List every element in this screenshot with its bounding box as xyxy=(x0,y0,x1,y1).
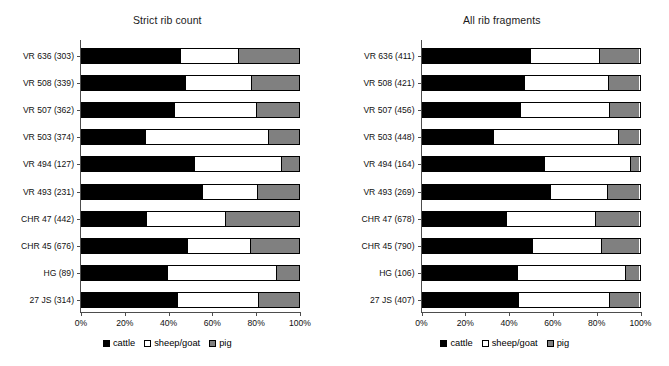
bar-segment-cattle xyxy=(82,293,178,307)
x-axis-tick-label: 60% xyxy=(544,318,561,328)
bar-segment-cattle xyxy=(82,49,181,63)
x-axis-tick xyxy=(300,312,301,316)
stacked-bar-figure: Strict rib count VR 636 (303)VR 508 (339… xyxy=(0,0,669,366)
stacked-bar xyxy=(81,156,300,172)
bar-segment-cattle xyxy=(82,76,186,90)
bar-segment-cattle xyxy=(423,103,522,117)
stacked-bar xyxy=(81,102,300,118)
bar-row: VR 507 (456) xyxy=(422,102,641,118)
bar-segment-cattle xyxy=(82,239,188,253)
y-axis-category-label: 27 JS (407) xyxy=(370,292,414,308)
x-axis-tick-label: 20% xyxy=(116,318,133,328)
bar-segment-pig xyxy=(251,239,299,253)
bar-segment-cattle xyxy=(82,130,146,144)
legend-item-pig: pig xyxy=(209,338,231,348)
x-axis-tick-label: 40% xyxy=(160,318,177,328)
y-axis-category-label: VR 636 (411) xyxy=(364,48,414,64)
bar-row: VR 508 (421) xyxy=(422,75,641,91)
bar-segment-cattle xyxy=(423,293,520,307)
bar-segment-cattle xyxy=(423,49,532,63)
y-axis-category-label: CHR 45 (790) xyxy=(361,238,414,254)
y-axis-category-label: HG (89) xyxy=(43,265,74,281)
y-axis-category-label: HG (106) xyxy=(379,265,414,281)
bar-row: CHR 47 (678) xyxy=(422,211,641,227)
y-axis-category-label: VR 494 (164) xyxy=(363,156,414,172)
bar-segment-sheep-goat xyxy=(146,130,269,144)
x-axis-tick xyxy=(422,312,423,316)
stacked-bar xyxy=(81,265,300,281)
bar-segment-pig xyxy=(619,130,640,144)
stacked-bar xyxy=(422,129,641,145)
chart-panel-strict-rib-count: Strict rib count VR 636 (303)VR 508 (339… xyxy=(0,0,335,366)
bar-segment-pig xyxy=(626,266,640,280)
bar-row: 27 JS (407) xyxy=(422,292,641,308)
bar-segment-cattle xyxy=(423,76,526,90)
legend-right: cattle sheep/goat pig xyxy=(341,338,669,348)
bar-segment-sheep-goat xyxy=(147,212,226,226)
y-axis-category-label: VR 507 (456) xyxy=(363,102,414,118)
bar-row: VR 508 (339) xyxy=(81,75,300,91)
bar-segment-sheep-goat xyxy=(519,293,609,307)
x-axis-tick-label: 0% xyxy=(75,318,87,328)
bar-row: VR 494 (164) xyxy=(422,156,641,172)
bar-row: VR 503 (374) xyxy=(81,129,300,145)
bar-segment-sheep-goat xyxy=(533,239,601,253)
legend-swatch-cattle-icon xyxy=(440,340,447,347)
bar-segment-sheep-goat xyxy=(181,49,239,63)
bar-row: HG (106) xyxy=(422,265,641,281)
y-axis-category-label: CHR 47 (678) xyxy=(361,211,414,227)
bar-row: 27 JS (314) xyxy=(81,292,300,308)
x-axis-tick-label: 100% xyxy=(289,318,311,328)
bar-segment-pig xyxy=(239,49,299,63)
legend-label-sheep-goat: sheep/goat xyxy=(154,338,200,348)
bar-segment-sheep-goat xyxy=(545,157,631,171)
bar-segment-cattle xyxy=(82,103,175,117)
chart-title-left: Strict rib count xyxy=(0,14,335,26)
stacked-bar xyxy=(81,184,300,200)
y-axis-category-label: VR 636 (303) xyxy=(23,48,74,64)
bar-segment-sheep-goat xyxy=(175,103,257,117)
bar-segment-sheep-goat xyxy=(525,76,609,90)
bar-segment-pig xyxy=(600,49,639,63)
legend-item-pig: pig xyxy=(547,338,569,348)
bar-row: CHR 47 (442) xyxy=(81,211,300,227)
x-axis-line-left xyxy=(80,312,301,313)
x-axis-tick xyxy=(465,312,466,316)
bar-segment-pig xyxy=(277,266,299,280)
x-axis-tick-label: 40% xyxy=(500,318,517,328)
bar-segment-pig xyxy=(610,103,640,117)
bar-segment-pig xyxy=(258,185,299,199)
stacked-bar xyxy=(81,48,300,64)
bar-segment-pig xyxy=(282,157,299,171)
stacked-bar xyxy=(422,75,641,91)
bar-row: HG (89) xyxy=(81,265,300,281)
legend-item-sheep-goat: sheep/goat xyxy=(144,338,200,348)
bar-segment-sheep-goat xyxy=(168,266,277,280)
bar-segment-sheep-goat xyxy=(507,212,596,226)
bar-segment-sheep-goat xyxy=(188,239,250,253)
stacked-bar xyxy=(81,211,300,227)
bar-segment-cattle xyxy=(423,212,508,226)
bar-row: VR 494 (127) xyxy=(81,156,300,172)
bar-segment-sheep-goat xyxy=(518,266,626,280)
stacked-bar xyxy=(81,129,300,145)
bar-segment-cattle xyxy=(82,212,147,226)
bar-segment-sheep-goat xyxy=(203,185,258,199)
x-axis-tick xyxy=(81,312,82,316)
x-axis-tick-label: 100% xyxy=(630,318,652,328)
bar-segment-sheep-goat xyxy=(186,76,252,90)
stacked-bar xyxy=(81,292,300,308)
bar-segment-sheep-goat xyxy=(521,103,610,117)
x-axis-tick-label: 0% xyxy=(415,318,427,328)
legend-swatch-sheep-goat-icon xyxy=(144,340,151,347)
bar-segment-pig xyxy=(259,293,299,307)
stacked-bar xyxy=(422,156,641,172)
bar-row: VR 493 (269) xyxy=(422,184,641,200)
bar-segment-pig xyxy=(252,76,299,90)
bar-row: CHR 45 (790) xyxy=(422,238,641,254)
x-axis-tick xyxy=(641,312,642,316)
bar-segment-pig xyxy=(602,239,640,253)
legend-label-sheep-goat: sheep/goat xyxy=(492,338,538,348)
legend-item-cattle: cattle xyxy=(103,338,135,348)
chart-title-right: All rib fragments xyxy=(335,14,669,26)
